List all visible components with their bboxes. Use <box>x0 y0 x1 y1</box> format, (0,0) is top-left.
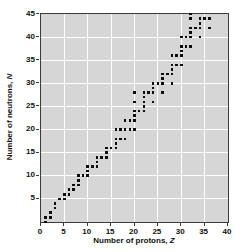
data-point <box>77 184 80 187</box>
y-tick-mark <box>36 198 39 199</box>
data-point <box>180 64 183 67</box>
data-point <box>115 142 118 145</box>
data-point <box>86 165 89 168</box>
data-point <box>199 22 202 25</box>
data-point <box>58 198 61 201</box>
data-point <box>152 87 155 90</box>
data-point <box>180 54 183 57</box>
data-point <box>194 27 197 30</box>
x-tick-mark <box>180 223 181 226</box>
y-tick-mark <box>36 105 39 106</box>
data-point <box>77 174 80 177</box>
x-tick-mark <box>87 223 88 226</box>
y-tick-mark <box>36 13 39 14</box>
y-axis-title: Number of neutrons, N <box>5 74 14 161</box>
data-point <box>180 50 183 53</box>
data-point <box>124 138 127 141</box>
data-point <box>199 27 202 30</box>
y-tick-label: 15 <box>15 147 35 156</box>
gridline-horizontal <box>41 83 228 84</box>
data-point <box>147 91 150 94</box>
data-point <box>105 147 108 150</box>
data-point <box>199 17 202 20</box>
data-point <box>49 211 52 214</box>
data-point <box>44 216 47 219</box>
data-point <box>72 188 75 191</box>
data-point <box>199 36 202 39</box>
data-point <box>96 156 99 159</box>
data-point <box>82 174 85 177</box>
data-point <box>189 31 192 34</box>
y-tick-label: 5 <box>15 193 35 202</box>
data-point <box>54 202 57 205</box>
data-point <box>143 105 146 108</box>
data-point <box>96 165 99 168</box>
x-tick-label: 15 <box>99 227 121 236</box>
plot-area <box>40 13 229 223</box>
y-tick-label: 35 <box>15 55 35 64</box>
data-point <box>203 17 206 20</box>
data-point <box>115 138 118 141</box>
y-tick-label: 40 <box>15 32 35 41</box>
data-point <box>133 101 136 104</box>
data-point <box>180 36 183 39</box>
data-point <box>63 193 66 196</box>
stable-nuclei-scatter-chart: 0510152025303540 51015202530354045 Numbe… <box>0 0 243 252</box>
x-tick-mark <box>110 223 111 226</box>
data-point <box>68 193 71 196</box>
data-point <box>189 17 192 20</box>
data-point <box>152 91 155 94</box>
data-point <box>189 13 192 16</box>
gridline-vertical <box>111 14 112 222</box>
data-point <box>161 91 164 94</box>
data-point <box>171 54 174 57</box>
data-point <box>166 73 169 76</box>
data-point <box>105 156 108 159</box>
data-point <box>208 17 211 20</box>
y-axis-title-variable: N <box>5 74 14 80</box>
gridline-vertical <box>134 14 135 222</box>
data-point <box>119 128 122 131</box>
gridline-horizontal <box>41 198 228 199</box>
data-point <box>157 82 160 85</box>
data-point <box>115 128 118 131</box>
x-tick-mark <box>227 223 228 226</box>
y-tick-label: 20 <box>15 124 35 133</box>
x-axis-title: Number of protons, Z <box>93 236 174 245</box>
data-point <box>133 110 136 113</box>
data-point <box>143 96 146 99</box>
x-tick-mark <box>204 223 205 226</box>
x-axis-title-variable: Z <box>170 236 175 245</box>
data-point <box>180 45 183 48</box>
x-tick-label: 0 <box>29 227 51 236</box>
data-point <box>124 128 127 131</box>
data-point <box>185 45 188 48</box>
gridline-vertical <box>64 14 65 222</box>
data-point <box>143 101 146 104</box>
data-point <box>161 77 164 80</box>
data-point <box>143 91 146 94</box>
x-tick-mark <box>157 223 158 226</box>
data-point <box>171 73 174 76</box>
y-axis-title-text: Number of neutrons, <box>5 79 14 160</box>
y-tick-mark <box>36 175 39 176</box>
gridline-horizontal <box>41 175 228 176</box>
y-tick-mark <box>36 36 39 37</box>
y-tick-mark <box>36 59 39 60</box>
data-point <box>129 128 132 131</box>
x-axis-title-text: Number of protons, <box>93 236 169 245</box>
data-point <box>171 68 174 71</box>
x-tick-label: 10 <box>76 227 98 236</box>
data-point <box>72 184 75 187</box>
data-point <box>133 114 136 117</box>
data-point <box>86 174 89 177</box>
data-point <box>100 156 103 159</box>
data-point <box>68 188 71 191</box>
data-point <box>77 179 80 182</box>
x-tick-label: 35 <box>193 227 215 236</box>
data-point <box>189 36 192 39</box>
gridline-vertical <box>157 14 158 222</box>
x-tick-label: 25 <box>146 227 168 236</box>
data-point <box>175 64 178 67</box>
data-point <box>110 147 113 150</box>
